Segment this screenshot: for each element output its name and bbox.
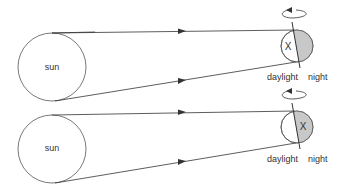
ray-top-2 bbox=[52, 110, 295, 116]
planet-2-x-label: X bbox=[300, 121, 307, 132]
ray-bottom-1 bbox=[55, 62, 296, 101]
night-label-1: night bbox=[308, 72, 328, 82]
daylight-label-1: daylight bbox=[267, 72, 299, 82]
sun-2-label: sun bbox=[45, 143, 60, 153]
diagram-2: sun X daylight night bbox=[18, 88, 328, 183]
ray-top-1 bbox=[52, 29, 295, 35]
night-label-2: night bbox=[308, 154, 328, 164]
planet-1: X bbox=[281, 22, 313, 68]
planet-1-x-label: X bbox=[285, 41, 292, 52]
planet-2: X bbox=[281, 103, 313, 149]
ray-bottom-2 bbox=[55, 143, 296, 183]
diagram-1: sun X daylight night bbox=[18, 7, 328, 101]
sun-1-label: sun bbox=[45, 62, 60, 72]
rotation-arrow-1-icon bbox=[282, 7, 306, 18]
rotation-arrow-2-icon bbox=[282, 88, 306, 99]
daylight-label-2: daylight bbox=[267, 154, 299, 164]
sun-earth-diagram: sun X daylight night sun bbox=[0, 0, 337, 187]
